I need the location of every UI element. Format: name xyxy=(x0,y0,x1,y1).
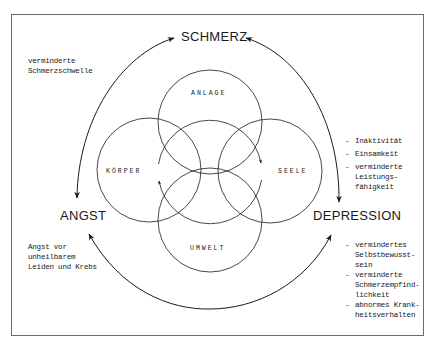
annotation-schmerzschwelle: verminderte Schmerzschwelle xyxy=(28,56,93,76)
list-item: Inaktivität xyxy=(345,136,402,146)
list-item: verminderte Leistungs- fähigkeit xyxy=(345,162,402,192)
list-item: vermindertes Selbstbewusst- sein xyxy=(345,240,420,270)
center-cycle-arrow-upper xyxy=(159,120,262,164)
node-schmerz: SCHMERZ xyxy=(181,29,247,44)
list-item: verminderte Schmerzempfind- lichkeit xyxy=(345,270,420,300)
list-item: Einsamkeit xyxy=(345,149,402,159)
annotation-angst: Angst vor unheilbarem Leiden und Krebs xyxy=(28,242,97,272)
node-depression: DEPRESSION xyxy=(313,208,401,223)
circle-label-koerper: KÖRPER xyxy=(106,168,141,175)
circle-label-umwelt: UMWELT xyxy=(190,245,225,252)
circle-label-seele: SEELE xyxy=(278,168,308,175)
node-angst: ANGST xyxy=(60,208,106,223)
annotation-list-schmerz-depression: Inaktivität Einsamkeit verminderte Leist… xyxy=(345,136,402,192)
circle-label-anlage: ANLAGE xyxy=(191,90,226,97)
circle-umwelt xyxy=(158,168,262,272)
circle-anlage xyxy=(158,70,262,174)
annotation-list-depression: vermindertes Selbstbewusst- sein vermind… xyxy=(345,240,420,320)
list-item: abnormes Krank- heitsverhalten xyxy=(345,300,420,320)
